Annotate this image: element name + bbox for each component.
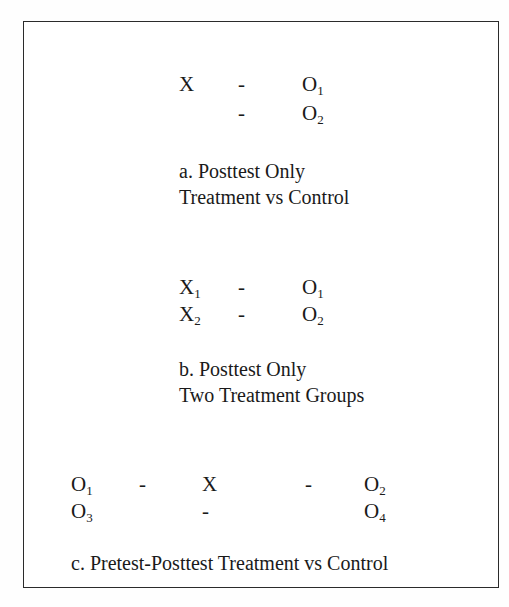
panel-c-caption-line-1: c. Pretest-Posttest Treatment vs Control (71, 550, 388, 576)
observation-base: O (364, 499, 379, 523)
panel-b-row2-observation-symbol: O2 (302, 304, 324, 325)
panel-a-row1-dash-1: - (238, 74, 245, 95)
panel-c-row2-posttest-symbol: O4 (364, 501, 386, 522)
panel-b-caption-line-2: Two Treatment Groups (179, 382, 364, 408)
panel-a-row1-observation-symbol: O1 (302, 74, 324, 95)
panel-b-row1-treatment-symbol: X1 (179, 277, 201, 298)
panel-b-row1-dash-1: - (238, 277, 245, 298)
observation-subscript: 2 (317, 313, 324, 328)
treatment-subscript: 1 (194, 286, 201, 301)
observation-subscript: 2 (317, 112, 324, 127)
panel-a-row1-treatment-symbol: X (179, 74, 194, 95)
panel-c-row2-pretest-symbol: O3 (71, 501, 93, 522)
panel-c-row2-dash-1: - (202, 501, 209, 522)
figure-frame-border: X - O1 - O2 a. Posttest Only Treatment v… (23, 21, 499, 588)
observation-subscript: 4 (379, 510, 386, 525)
panel-c-row1-treatment-symbol: X (202, 474, 217, 495)
observation-subscript: 1 (317, 83, 324, 98)
observation-subscript: 1 (317, 286, 324, 301)
treatment-base: X (179, 302, 194, 326)
panel-c-row1-dash-2: - (305, 474, 312, 495)
observation-base: O (71, 499, 86, 523)
observation-subscript: 3 (86, 510, 93, 525)
panel-a-caption-line-2: Treatment vs Control (179, 184, 349, 210)
panel-b-row2-dash-1: - (238, 304, 245, 325)
panel-a-caption-line-1: a. Posttest Only (179, 158, 305, 184)
panel-b-caption-line-1: b. Posttest Only (179, 356, 306, 382)
panel-b-row1-observation-symbol: O1 (302, 277, 324, 298)
observation-base: O (302, 302, 317, 326)
panel-a-row2-dash-1: - (238, 103, 245, 124)
observation-base: O (364, 472, 379, 496)
observation-subscript: 2 (379, 483, 386, 498)
panel-b-row2-treatment-symbol: X2 (179, 304, 201, 325)
panel-c-row1-posttest-symbol: O2 (364, 474, 386, 495)
scanned-page: X - O1 - O2 a. Posttest Only Treatment v… (0, 0, 509, 607)
observation-base: O (302, 101, 317, 125)
panel-c-row1-dash-1: - (139, 474, 146, 495)
treatment-subscript: 2 (194, 313, 201, 328)
treatment-base: X (179, 275, 194, 299)
observation-base: O (302, 72, 317, 96)
observation-base: O (302, 275, 317, 299)
panel-a-row2-observation-symbol: O2 (302, 103, 324, 124)
observation-subscript: 1 (86, 483, 93, 498)
observation-base: O (71, 472, 86, 496)
panel-c-row1-pretest-symbol: O1 (71, 474, 93, 495)
